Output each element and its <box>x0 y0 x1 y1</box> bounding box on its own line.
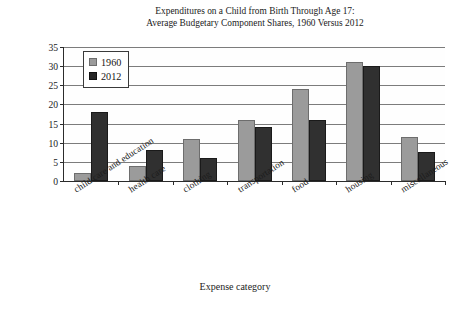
y-axis-tick-label: 0 <box>53 176 58 187</box>
gridline <box>64 124 445 125</box>
y-axis-tick-label: 5 <box>53 156 58 167</box>
y-axis-tick-label: 30 <box>48 61 58 72</box>
x-axis-tick <box>445 181 446 185</box>
y-axis-tick-label: 15 <box>48 118 58 129</box>
bar-1960-food <box>292 89 309 181</box>
bar-2012-food <box>309 120 326 181</box>
y-axis-tick <box>60 162 64 163</box>
bar-1960-transportation <box>238 120 255 181</box>
chart-title-line-1: Expenditures on a Child from Birth Throu… <box>60 5 450 17</box>
x-axis-tick <box>391 181 392 185</box>
x-axis-tick <box>336 181 337 185</box>
y-axis-tick <box>60 85 64 86</box>
y-axis-tick <box>60 181 64 182</box>
chart-title: Expenditures on a Child from Birth Throu… <box>60 5 450 30</box>
legend-swatch-2012-icon <box>89 72 97 80</box>
y-axis-tick-label: 10 <box>48 137 58 148</box>
y-axis-tick-label: 35 <box>48 42 58 53</box>
y-axis-tick-label: 25 <box>48 80 58 91</box>
bar-1960-housing <box>346 62 363 181</box>
legend-swatch-1960-icon <box>89 58 97 66</box>
y-axis-tick <box>60 66 64 67</box>
x-axis-title: Expense category <box>0 281 470 292</box>
x-axis-tick <box>227 181 228 185</box>
gridline <box>64 47 445 48</box>
chart-legend: 1960 2012 <box>83 51 129 88</box>
x-axis-tick <box>173 181 174 185</box>
bar-chart-figure: Expenditures on a Child from Birth Throu… <box>0 0 470 310</box>
gridline <box>64 104 445 105</box>
y-axis-tick <box>60 104 64 105</box>
y-axis-tick <box>60 143 64 144</box>
chart-title-line-2: Average Budgetary Component Shares, 1960… <box>60 17 450 29</box>
legend-item-2012: 2012 <box>89 69 121 83</box>
y-axis-tick <box>60 47 64 48</box>
legend-item-1960: 1960 <box>89 55 121 69</box>
y-axis-tick <box>60 124 64 125</box>
x-axis-tick <box>118 181 119 185</box>
x-axis-tick <box>282 181 283 185</box>
legend-label-2012: 2012 <box>101 71 121 82</box>
bar-2012-housing <box>363 66 380 181</box>
y-axis-tick-label: 20 <box>48 99 58 110</box>
legend-label-1960: 1960 <box>101 57 121 68</box>
